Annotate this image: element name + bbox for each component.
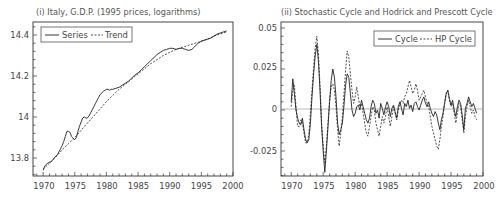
legend-label-series: Series: [62, 30, 88, 40]
x-tick-label: 1990: [409, 181, 430, 191]
x-axis-ticks: [285, 172, 483, 176]
x-tick-label: 1980: [96, 181, 117, 191]
y-tick-label: -0.025: [250, 146, 277, 156]
x-tick-label: 1990: [159, 181, 180, 191]
chart-cycle: (ii) Stochastic Cycle and Hodrick and Pr…: [250, 7, 495, 191]
x-tick-label: 1995: [191, 181, 212, 191]
legend-label-hp-cycle: HP Cycle: [435, 34, 472, 44]
hp-cycle-line: [291, 36, 476, 162]
y-axis-ticks: [281, 28, 285, 176]
plot-frame: [33, 22, 233, 176]
y-axis-ticks: [33, 27, 37, 175]
x-tick-label: 1975: [313, 181, 334, 191]
trend-line: [43, 32, 227, 169]
x-tick-label: 1985: [377, 181, 398, 191]
y-tick-label: 14: [18, 112, 29, 122]
x-tick-label: 1970: [281, 181, 302, 191]
x-tick-label: 2000: [222, 181, 243, 191]
y-tick-label: 14.2: [10, 71, 29, 81]
chart-title: (i) Italy, G.D.P. (1995 prices, logarith…: [36, 7, 200, 17]
x-tick-label: 1980: [345, 181, 366, 191]
figure: (i) Italy, G.D.P. (1995 prices, logarith…: [0, 0, 498, 199]
legend-label-cycle: Cycle: [395, 34, 418, 44]
cycle-line: [291, 44, 476, 172]
y-tick-label: 14.4: [10, 30, 29, 40]
series-line: [43, 31, 227, 170]
chart-title: (ii) Stochastic Cycle and Hodrick and Pr…: [281, 7, 493, 17]
chart-gdp: (i) Italy, G.D.P. (1995 prices, logarith…: [10, 7, 243, 191]
legend-label-trend: Trend: [104, 30, 128, 40]
x-axis-ticks: [37, 172, 233, 176]
legend: Cycle HP Cycle: [374, 31, 475, 46]
y-tick-label: 13.8: [10, 153, 29, 163]
y-tick-label: 0.025: [253, 62, 277, 72]
x-tick-label: 1985: [128, 181, 149, 191]
x-tick-label: 1970: [33, 181, 54, 191]
y-tick-label: 0.05: [258, 23, 277, 33]
x-tick-label: 1975: [65, 181, 86, 191]
y-tick-label: 0: [272, 104, 277, 114]
legend: Series Trend: [41, 27, 132, 42]
chart-canvas: (i) Italy, G.D.P. (1995 prices, logarith…: [0, 0, 498, 199]
x-tick-label: 2000: [473, 181, 494, 191]
x-tick-label: 1995: [441, 181, 462, 191]
